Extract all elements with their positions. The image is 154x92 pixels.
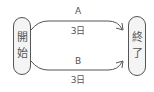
edge-a-name: A: [63, 6, 93, 16]
end-char-1: 終: [132, 30, 143, 46]
edge-b-name: B: [63, 56, 93, 66]
end-char-2: 了: [132, 46, 143, 62]
edge-b-duration: 3日: [63, 73, 93, 86]
start-char-1: 開: [17, 30, 28, 46]
end-node: 終 了: [128, 16, 146, 76]
start-node: 開 始: [13, 17, 31, 75]
edge-a-duration: 3日: [63, 24, 93, 37]
start-char-2: 始: [17, 46, 28, 62]
